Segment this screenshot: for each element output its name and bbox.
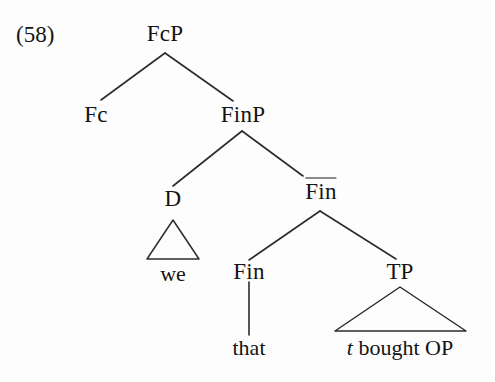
branch-finp-d (173, 131, 242, 186)
branch-finp-finbar (242, 131, 303, 176)
node-fc: Fc (84, 103, 107, 126)
tp-phrase-rest: bought OP (353, 335, 453, 360)
node-fin: Fin (233, 260, 264, 283)
triangle-d (147, 220, 199, 259)
tree-branch-lines (0, 0, 495, 382)
syntax-tree-figure: (58) FcP Fc FinP D Fin Fin TP we that t … (0, 0, 495, 382)
terminal-that: that (233, 337, 266, 359)
branch-finbar-tp (320, 211, 396, 259)
branch-fcp-finp (165, 53, 233, 101)
node-tp: TP (386, 260, 413, 283)
branch-fcp-fc (101, 53, 165, 100)
node-d: D (165, 187, 182, 210)
branch-finbar-fin (249, 211, 320, 260)
node-fcp: FcP (147, 22, 183, 45)
example-number: (58) (16, 23, 54, 46)
terminal-tp-phrase: t bought OP (347, 337, 453, 359)
triangle-tp (335, 287, 466, 331)
node-fin-bar: Fin (305, 178, 336, 203)
node-finp: FinP (221, 103, 265, 126)
terminal-we: we (160, 263, 186, 285)
